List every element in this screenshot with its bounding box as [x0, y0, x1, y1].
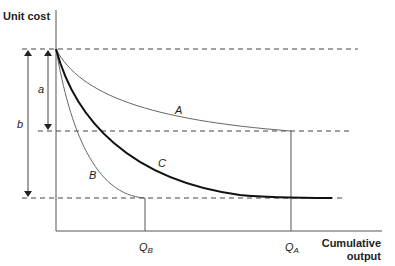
curve-b — [56, 49, 145, 198]
y-axis-label: Unit cost — [3, 10, 50, 22]
curve-c-label: C — [158, 157, 166, 169]
curve-b-label: B — [89, 169, 96, 181]
x-axis-label-line2: output — [347, 250, 382, 262]
x-axis-label-line1: Cumulative — [322, 237, 381, 249]
dimension-label-a: a — [38, 83, 44, 95]
curve-a-label: A — [174, 104, 182, 116]
qa-label: QA — [285, 241, 299, 255]
dimension-label-b: b — [17, 118, 23, 130]
qb-label: QB — [139, 241, 154, 255]
learning-curve-diagram: Unit cost Cumulative output A B C a b QB… — [0, 0, 395, 266]
